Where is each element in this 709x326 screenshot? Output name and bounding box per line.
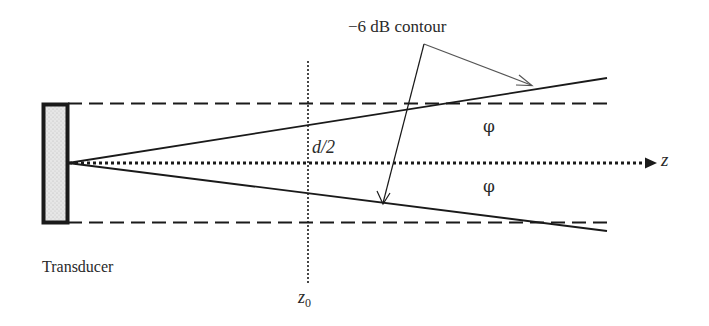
contour-label: −6 dB contour — [348, 18, 446, 35]
axis-label: z — [661, 150, 668, 169]
leader-line-lower — [383, 44, 424, 203]
near-field-label-base: z — [298, 287, 305, 307]
near-field-label: z0 — [298, 288, 311, 309]
leader-line-upper — [424, 44, 531, 85]
half-width-label: d/2 — [312, 138, 335, 156]
near-field-label-subscript: 0 — [305, 296, 311, 310]
transducer-element — [44, 105, 68, 223]
upper-contour-line — [68, 78, 607, 163]
divergence-angle-upper-label: φ — [483, 118, 495, 135]
transducer-label: Transducer — [42, 259, 113, 275]
lower-contour-line — [68, 163, 607, 231]
axis-arrowhead-icon — [645, 158, 657, 169]
divergence-angle-lower-label: φ — [483, 178, 495, 195]
beam-diagram — [0, 0, 709, 326]
